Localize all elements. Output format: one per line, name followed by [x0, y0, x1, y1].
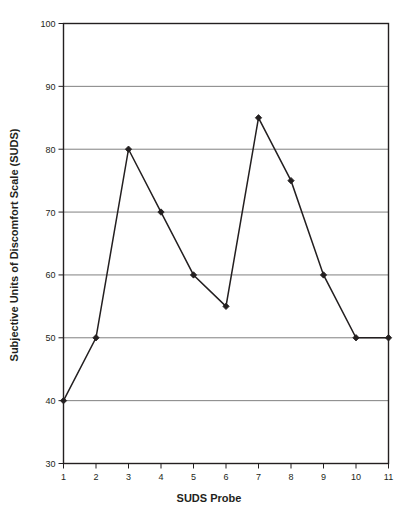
x-axis-tick-label: 9	[321, 472, 326, 482]
x-axis-title: SUDS Probe	[177, 492, 242, 504]
x-axis-tick-label: 4	[158, 472, 163, 482]
y-axis-tick-label: 40	[45, 396, 55, 406]
chart-container: 1234567891011 30405060708090100 SUDS Pro…	[0, 0, 407, 520]
x-axis-tick-label: 11	[384, 472, 393, 482]
x-axis-tick-label: 2	[93, 472, 98, 482]
x-axis-tick-label: 10	[351, 472, 361, 482]
x-axis-tick-label: 8	[288, 472, 293, 482]
y-axis-tick-label: 30	[45, 459, 55, 469]
y-axis-tick-label: 100	[40, 19, 55, 29]
x-axis-tick-label: 7	[256, 472, 261, 482]
suds-line-chart: 1234567891011 30405060708090100 SUDS Pro…	[0, 0, 407, 520]
y-axis-tick-label: 50	[45, 333, 55, 343]
y-axis-title: Subjective Units of Discomfort Scale (SU…	[8, 128, 20, 361]
x-axis-tick-label: 6	[223, 472, 228, 482]
x-axis-tick-label: 3	[126, 472, 131, 482]
y-axis-tick-label: 90	[45, 82, 55, 92]
x-axis-tick-label: 1	[61, 472, 66, 482]
y-axis-tick-label: 70	[45, 208, 55, 218]
y-axis-tick-label: 80	[45, 145, 55, 155]
x-axis-tick-label: 5	[191, 472, 196, 482]
chart-background	[0, 0, 407, 520]
y-axis-tick-label: 60	[45, 270, 55, 280]
